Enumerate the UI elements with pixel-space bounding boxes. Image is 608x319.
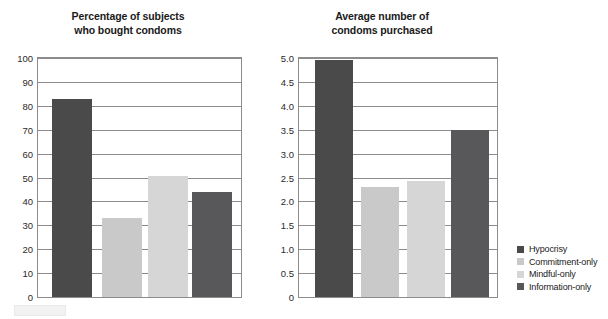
bar-mindful-only [407,181,445,297]
gridline [38,297,241,298]
y-tick-label: 10 [22,268,33,279]
y-tick-label: 80 [22,101,33,112]
y-tick-label: 30 [22,220,33,231]
y-tick-label: 50 [22,173,33,184]
y-tick-label: 100 [17,53,33,64]
y-tick-label: 20 [22,244,33,255]
legend-label: Information-only [529,282,591,292]
y-tick-label: 5.0 [281,53,294,64]
bar-hypocrisy [52,99,92,297]
bar-commitment-only [361,187,399,297]
chart-panel-average: Average number of condoms purchased [258,0,506,319]
y-tick-label: 0.5 [281,268,294,279]
y-tick-label: 2.0 [281,196,294,207]
chart-panel-percentage: Percentage of subjects who bought condom… [0,0,256,319]
y-tick-label: 1.5 [281,220,294,231]
y-tick-label: 90 [22,77,33,88]
y-tick-label: 2.5 [281,173,294,184]
bar-information-only [451,130,489,297]
legend-label: Mindful-only [529,269,576,279]
y-tick-label: 1.0 [281,244,294,255]
legend: HypocrisyCommitment-onlyMindful-onlyInfo… [517,243,608,293]
bar-hypocrisy [315,60,353,297]
gridline [299,297,497,298]
y-axis-percentage: 1009080706050403020100 [0,57,33,298]
y-tick-label: 0 [28,292,33,303]
chart-title-percentage: Percentage of subjects who bought condom… [0,10,256,37]
bar-mindful-only [148,176,188,297]
y-tick-label: 60 [22,149,33,160]
y-tick-label: 0 [289,292,294,303]
legend-item-mindful-only: Mindful-only [517,268,608,280]
legend-item-hypocrisy: Hypocrisy [517,243,608,255]
y-tick-label: 3.0 [281,149,294,160]
y-axis-average: 5.04.54.03.53.02.52.01.51.00.50 [258,57,294,298]
plot-area-percentage [37,57,242,298]
legend-item-information-only: Information-only [517,281,608,293]
bar-group-percentage [38,58,241,297]
chart-title-average: Average number of condoms purchased [258,10,506,37]
legend-item-commitment-only: Commitment-only [517,256,608,268]
legend-swatch-icon [517,271,524,278]
legend-swatch-icon [517,283,524,290]
caption-artifact [14,305,66,316]
y-tick-label: 3.5 [281,125,294,136]
legend-label: Commitment-only [529,257,597,267]
y-tick-label: 70 [22,125,33,136]
figure-container: Percentage of subjects who bought condom… [0,0,608,319]
bar-information-only [192,192,232,297]
y-tick-label: 4.5 [281,77,294,88]
legend-label: Hypocrisy [529,244,567,254]
y-tick-label: 40 [22,196,33,207]
legend-swatch-icon [517,258,524,265]
y-tick-label: 4.0 [281,101,294,112]
bar-group-average [299,58,497,297]
plot-area-average [298,57,498,298]
legend-swatch-icon [517,246,524,253]
bar-commitment-only [102,218,142,297]
